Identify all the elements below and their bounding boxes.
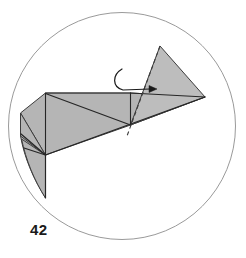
origami-diagram [0,0,246,258]
step-number-label: 42 [30,222,47,237]
origami-step-figure: 42 [0,0,246,258]
upper-right-triangle-flap [131,46,206,125]
paper-panels [21,46,206,198]
